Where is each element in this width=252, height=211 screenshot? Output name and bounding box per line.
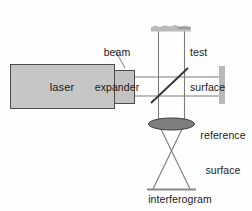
imaging-lens	[149, 118, 195, 130]
beam-converging-right	[153, 124, 185, 189]
reference-surface-label: reference surface	[194, 107, 252, 199]
interferometer-diagram: laser beam expander test surface referen…	[0, 0, 252, 211]
test-surface-label-line2: surface	[190, 82, 252, 94]
reference-surface-label-line1: reference	[194, 130, 252, 142]
interferogram-label: interferogram	[124, 194, 236, 206]
beam-expander-label-line2: expander	[84, 82, 150, 94]
reference-surface-label-line2: surface	[194, 165, 252, 177]
beam-expander-label: beam expander	[84, 24, 150, 116]
test-surface-label: test surface	[190, 24, 252, 116]
test-surface-label-line1: test	[190, 47, 252, 59]
beam-expander-label-line1: beam	[84, 47, 150, 59]
beam-splitter	[151, 68, 188, 103]
beam-converging-left	[159, 124, 191, 189]
